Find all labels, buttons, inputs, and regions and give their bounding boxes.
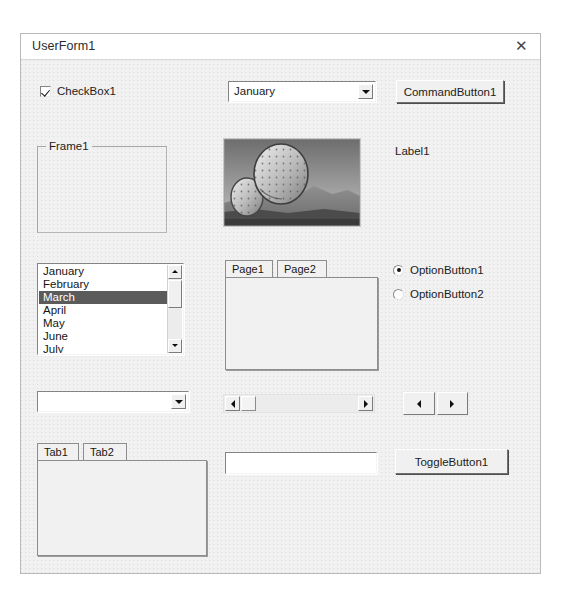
radio-unselected-icon — [393, 289, 404, 300]
option-button1-label: OptionButton1 — [410, 264, 484, 276]
multipage-control[interactable]: Page1 Page2 — [225, 260, 378, 370]
close-icon[interactable]: ✕ — [512, 37, 530, 55]
triangle-left-glyph — [231, 400, 235, 408]
tabstrip-body — [37, 460, 207, 556]
triangle-right-icon — [450, 400, 454, 408]
toggle-button1-label: ToggleButton1 — [415, 456, 489, 468]
horizontal-scrollbar[interactable] — [223, 394, 375, 413]
chevron-down-icon[interactable] — [358, 84, 373, 99]
listbox-scrollbar[interactable] — [167, 265, 182, 353]
window-title: UserForm1 — [32, 39, 95, 53]
option-button1[interactable]: OptionButton1 — [393, 264, 484, 276]
scrollbar-thumb[interactable] — [168, 280, 182, 308]
triangle-left-icon[interactable] — [225, 396, 240, 411]
toggle-button1[interactable]: ToggleButton1 — [395, 449, 508, 474]
tab-tab1[interactable]: Tab1 — [37, 443, 79, 460]
label1: Label1 — [395, 145, 430, 157]
tab-tab2-label: Tab2 — [90, 446, 114, 458]
listbox-months[interactable]: January February March April May June Ju… — [37, 263, 184, 355]
command-button1-label: CommandButton1 — [404, 86, 497, 98]
scrollbar-thumb[interactable] — [241, 396, 256, 411]
titlebar: UserForm1 ✕ — [21, 34, 540, 60]
option-button2[interactable]: OptionButton2 — [393, 288, 484, 300]
spin-decrement-button[interactable] — [403, 392, 435, 415]
chevron-down-glyph — [362, 90, 370, 94]
tab-page2[interactable]: Page2 — [277, 260, 327, 277]
command-button1[interactable]: CommandButton1 — [396, 80, 504, 103]
triangle-left-icon — [417, 400, 421, 408]
triangle-up-glyph — [172, 270, 178, 273]
list-item[interactable]: June — [39, 330, 167, 343]
tab-page2-label: Page2 — [284, 263, 316, 275]
frame1: Frame1 — [37, 146, 167, 233]
list-item[interactable]: April — [39, 304, 167, 317]
triangle-right-glyph — [364, 400, 368, 408]
cactus-desert-photo — [224, 139, 360, 226]
spin-button[interactable] — [402, 391, 469, 416]
form-canvas: CheckBox1 January CommandButton1 Frame1 — [21, 60, 540, 573]
list-item[interactable]: May — [39, 317, 167, 330]
combobox-month[interactable]: January — [228, 81, 376, 102]
triangle-up-icon[interactable] — [168, 265, 182, 279]
multipage-body — [225, 277, 378, 370]
checkbox-checked-icon — [40, 86, 51, 97]
option-button2-label: OptionButton2 — [410, 288, 484, 300]
checkbox1[interactable]: CheckBox1 — [40, 85, 116, 97]
triangle-down-icon[interactable] — [168, 339, 182, 353]
textbox[interactable] — [225, 452, 377, 474]
combobox-month-value: January — [234, 85, 275, 97]
tabstrip-control[interactable]: Tab1 Tab2 — [37, 443, 207, 556]
userform-window: UserForm1 ✕ CheckBox1 January CommandBut… — [20, 33, 541, 574]
triangle-right-icon[interactable] — [358, 396, 373, 411]
checkbox1-label: CheckBox1 — [57, 85, 116, 97]
list-item[interactable]: January — [39, 265, 167, 278]
list-item[interactable]: February — [39, 278, 167, 291]
triangle-down-glyph — [172, 344, 178, 347]
list-item[interactable]: July — [39, 343, 167, 353]
radio-selected-icon — [393, 265, 404, 276]
listbox-items: January February March April May June Ju… — [39, 265, 167, 353]
frame1-caption: Frame1 — [46, 140, 92, 152]
chevron-down-icon[interactable] — [171, 394, 186, 409]
list-item-selected[interactable]: March — [39, 291, 167, 304]
tab-tab1-label: Tab1 — [44, 446, 68, 458]
tab-page1[interactable]: Page1 — [225, 260, 273, 277]
chevron-down-glyph — [175, 400, 183, 404]
image-control — [223, 138, 361, 227]
combobox-empty[interactable] — [37, 391, 189, 412]
tab-page1-label: Page1 — [232, 263, 264, 275]
spin-increment-button[interactable] — [437, 392, 469, 415]
tab-tab2[interactable]: Tab2 — [83, 443, 127, 460]
